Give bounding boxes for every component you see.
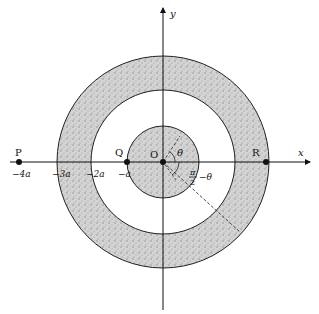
tick-label-minus-3a: −3a: [52, 169, 71, 179]
point-Q: [124, 159, 130, 165]
label-P: P: [15, 147, 22, 158]
angle-label-two: 2: [190, 178, 195, 187]
point-P: [16, 159, 22, 165]
label-O: O: [150, 149, 158, 160]
y-axis-label: y: [169, 8, 176, 19]
angle-label-theta: θ: [177, 147, 183, 158]
point-R: [263, 159, 269, 165]
label-R: R: [252, 147, 260, 158]
diagram-svg: P Q O R x y −4a −3a −2a −a θ π 2 −θ: [0, 0, 319, 314]
tick-label-minus-4a: −4a: [12, 169, 31, 179]
label-Q: Q: [115, 147, 123, 158]
tick-label-minus-a: −a: [118, 169, 131, 179]
x-axis-label: x: [298, 147, 304, 158]
diagram-canvas: P Q O R x y −4a −3a −2a −a θ π 2 −θ: [0, 0, 319, 314]
angle-label-pi: π: [189, 168, 196, 177]
point-O: [160, 159, 166, 165]
tick-label-minus-2a: −2a: [86, 169, 105, 179]
angle-label-minus-theta: −θ: [199, 172, 213, 182]
